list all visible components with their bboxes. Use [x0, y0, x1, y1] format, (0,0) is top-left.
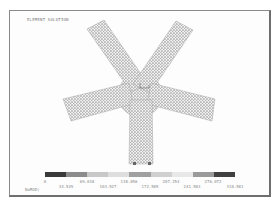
- mesh-arm-bottom: [129, 100, 153, 164]
- legend-label: 172.585: [142, 184, 159, 189]
- legend-seg-2: [66, 172, 87, 177]
- mesh-arm-upper-right: [133, 21, 193, 93]
- legend-label: 103.527: [100, 184, 117, 189]
- legend-label: 138.056: [121, 179, 138, 184]
- legend-seg-1: [45, 172, 66, 177]
- legend-seg-6: [151, 172, 172, 177]
- legend-label: 207.254: [163, 179, 180, 184]
- legend-label: 0: [44, 179, 46, 184]
- legend-label: 69.018: [80, 179, 94, 184]
- legend-seg-4: [108, 172, 129, 177]
- units-label: NoMOD): [25, 187, 39, 192]
- legend-label: 276.072: [205, 179, 222, 184]
- color-legend-bar: [45, 172, 235, 177]
- mesh-arm-left: [63, 83, 133, 121]
- legend-label: 241.583: [184, 184, 201, 189]
- star-mesh: [63, 20, 215, 164]
- mesh-arm-right: [147, 83, 215, 121]
- legend-label: 310.581: [227, 184, 244, 189]
- legend-seg-7: [172, 172, 193, 177]
- legend-seg-8: [193, 172, 214, 177]
- legend-seg-9: [214, 172, 235, 177]
- legend-seg-3: [87, 172, 108, 177]
- legend-seg-5: [129, 172, 150, 177]
- legend-label: 34.529: [59, 184, 73, 189]
